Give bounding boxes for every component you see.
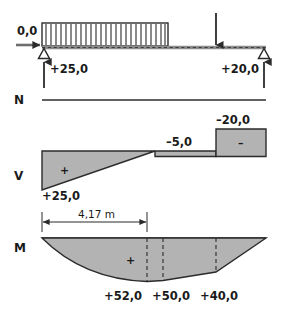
moment-area [42, 238, 266, 282]
right-support-triangle [259, 49, 270, 59]
shear-negative-strip [155, 151, 216, 157]
moment-end-label: +40,0 [200, 289, 238, 303]
dimension-4-17: 4,17 m [42, 208, 147, 232]
left-reaction-label: +25,0 [50, 62, 88, 76]
right-support [259, 49, 270, 59]
left-support-triangle [39, 49, 50, 59]
left-support [39, 49, 50, 59]
shear-mid-label: –5,0 [166, 135, 192, 149]
normal-force-diagram: N [14, 93, 266, 107]
shear-end-label: –20,0 [216, 113, 250, 127]
moment-positive-sign: + [126, 254, 135, 267]
normal-force-label: N [14, 93, 24, 107]
right-reaction-label: +20,0 [221, 62, 259, 76]
figure-canvas: 0,0 +25,0 +20,0 N V + – +25,0 [0, 0, 286, 316]
shear-force-diagram: V + – +25,0 –5,0 –20,0 [14, 113, 266, 203]
horizontal-reaction-label: 0,0 [17, 24, 37, 38]
moment-diagram: M 4,17 m + +52,0 +50,0 +40,0 [14, 208, 266, 303]
shear-force-label: V [14, 169, 24, 183]
distributed-load [42, 23, 168, 46]
moment-max-label: +52,0 [104, 289, 142, 303]
beam-system: 0,0 +25,0 +20,0 [16, 13, 270, 88]
moment-label: M [14, 241, 26, 255]
shear-positive-sign: + [60, 164, 69, 177]
shear-start-label: +25,0 [42, 189, 80, 203]
shear-negative-sign: – [238, 137, 244, 150]
dimension-label: 4,17 m [78, 208, 115, 220]
structural-diagram: 0,0 +25,0 +20,0 N V + – +25,0 [0, 0, 286, 316]
shear-positive-area [42, 151, 155, 190]
moment-mid-label: +50,0 [152, 289, 190, 303]
